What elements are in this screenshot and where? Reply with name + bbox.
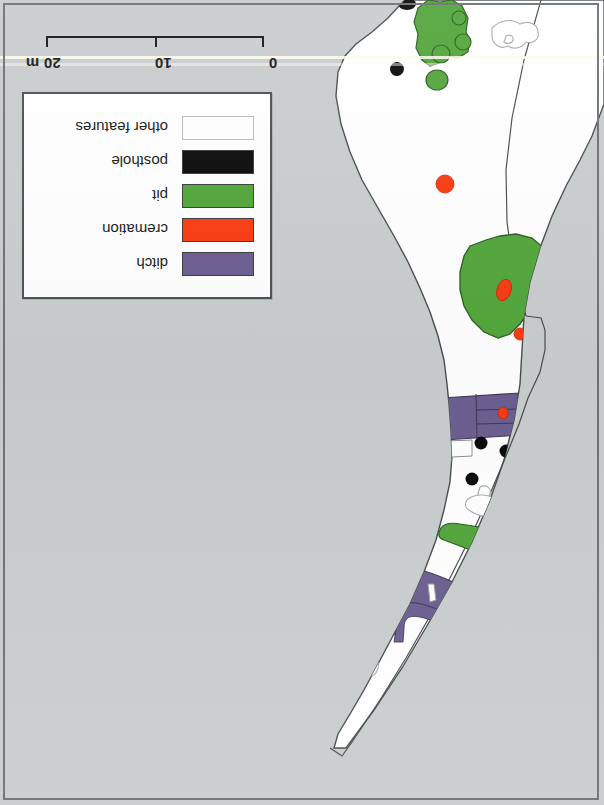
figure-canvas: m 20 10 0 ditch cremation pit posthole bbox=[0, 0, 604, 805]
figure-border bbox=[3, 3, 599, 800]
